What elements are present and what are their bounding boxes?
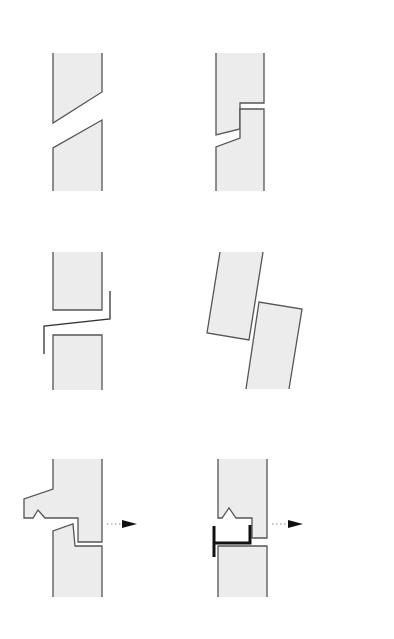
lower-panel xyxy=(53,335,102,390)
detail-bevelled-joint: Sloped (bevelled) butt joint xyxy=(53,53,102,191)
arrow-right-icon xyxy=(288,520,303,528)
lower-tilted-panel xyxy=(246,302,302,389)
lower-panel xyxy=(53,120,102,191)
lower-panel xyxy=(218,546,267,597)
detail-tilted-panels: Displaced / tilted panels xyxy=(207,252,302,389)
upper-panel xyxy=(53,53,102,123)
upper-tilted-panel xyxy=(207,252,263,340)
upper-panel xyxy=(53,252,102,310)
detail-hooked-joint: Hooked overlap joint with movement arrow xyxy=(24,459,137,597)
detail-flashed-joint: Open joint with Z-flashing xyxy=(44,252,110,390)
joint-details-diagram: Sloped (bevelled) butt joint Stepped reb… xyxy=(0,0,394,639)
detail-stepped-joint: Stepped rebated joint xyxy=(216,53,264,191)
metal-bracket xyxy=(214,525,250,543)
arrow-right-icon xyxy=(122,520,137,528)
upper-panel xyxy=(218,459,267,538)
detail-bracketed-joint: Joint with metal bracket and movement ar… xyxy=(214,459,303,597)
